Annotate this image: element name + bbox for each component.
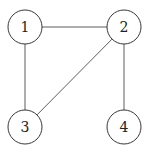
edges [25, 27, 124, 115]
node-4: 4 [107, 110, 141, 144]
node-3: 3 [8, 110, 42, 144]
node-label: 4 [120, 119, 129, 135]
node-1: 1 [8, 10, 42, 44]
node-2: 2 [107, 10, 141, 44]
edge-2-3 [37, 39, 112, 115]
graph-diagram: 1234 [0, 0, 151, 153]
node-label: 2 [120, 19, 129, 35]
node-label: 1 [21, 19, 30, 35]
node-label: 3 [21, 119, 30, 135]
